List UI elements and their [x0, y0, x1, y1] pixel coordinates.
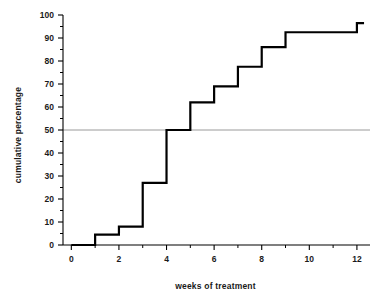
x-axis-major-ticks	[71, 245, 357, 250]
x-tick-label-6: 6	[212, 254, 217, 264]
y-tick-label-30: 30	[45, 171, 55, 181]
plot-area: 0102030405060708090100 024681012	[0, 0, 389, 299]
y-tick-label-60: 60	[45, 102, 55, 112]
y-tick-label-50: 50	[45, 125, 55, 135]
x-axis-title: weeks of treatment	[0, 281, 389, 291]
y-tick-label-40: 40	[45, 148, 55, 158]
x-tick-label-0: 0	[69, 254, 74, 264]
y-tick-label-100: 100	[40, 10, 54, 20]
x-tick-label-4: 4	[164, 254, 169, 264]
x-tick-label-10: 10	[305, 254, 315, 264]
x-axis-tick-labels: 024681012	[69, 254, 362, 264]
y-axis-tick-labels: 0102030405060708090100	[40, 10, 54, 250]
y-tick-label-80: 80	[45, 56, 55, 66]
y-tick-label-90: 90	[45, 33, 55, 43]
y-tick-label-70: 70	[45, 79, 55, 89]
x-tick-label-12: 12	[352, 254, 362, 264]
y-tick-label-20: 20	[45, 194, 55, 204]
y-tick-label-10: 10	[45, 217, 55, 227]
x-tick-label-8: 8	[259, 254, 264, 264]
y-tick-label-0: 0	[49, 240, 54, 250]
x-tick-label-2: 2	[117, 254, 122, 264]
cumulative-percentage-chart: 0102030405060708090100 024681012 weeks o…	[0, 0, 389, 299]
y-axis-title: cumulative percentage	[13, 55, 23, 215]
